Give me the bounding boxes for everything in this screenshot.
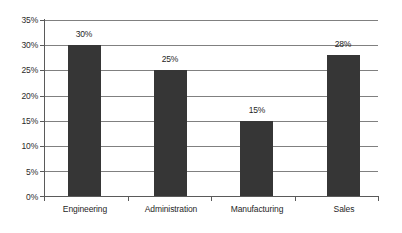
y-axis-tick-label: 10% — [4, 142, 38, 150]
bar-sales[interactable] — [327, 55, 360, 196]
bar-value-label-administration: 25% — [147, 55, 193, 64]
gridline-35 — [44, 20, 378, 21]
x-axis-tick-mark — [378, 197, 379, 201]
bar-value-label-manufacturing: 15% — [234, 106, 280, 115]
bar-value-label-engineering: 30% — [61, 30, 107, 39]
y-axis-tick-label: 20% — [4, 92, 38, 100]
x-axis-tick-mark — [295, 197, 296, 201]
bar-manufacturing[interactable] — [240, 121, 273, 196]
y-axis-tick-label: 15% — [4, 117, 38, 125]
bar-engineering[interactable] — [68, 45, 101, 196]
bar-administration[interactable] — [154, 70, 187, 196]
bar-chart: 35% 30% 25% 20% 15% 10% 5% 0% 30% 25% 15… — [0, 0, 402, 233]
x-axis-tick-mark — [128, 197, 129, 201]
x-axis-tick-mark — [211, 197, 212, 201]
y-axis-tick-label: 35% — [4, 16, 38, 24]
y-axis-tick-label: 25% — [4, 66, 38, 74]
y-axis-tick-label: 30% — [4, 41, 38, 49]
x-axis-tick-mark — [44, 197, 45, 201]
y-axis-tick-label: 5% — [4, 168, 38, 176]
x-axis-category-label-sales: Sales — [289, 204, 399, 214]
bar-value-label-sales: 28% — [320, 40, 366, 49]
y-axis-line — [44, 19, 45, 197]
y-axis-tick-label: 0% — [4, 193, 38, 201]
